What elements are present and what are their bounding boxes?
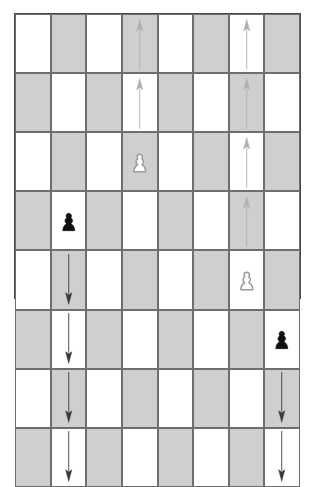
board-square-d7[interactable] bbox=[122, 73, 158, 132]
board-square-b3[interactable] bbox=[51, 310, 87, 369]
board-square-f2[interactable] bbox=[193, 369, 229, 428]
board-square-a8[interactable] bbox=[15, 14, 51, 73]
board-square-b7[interactable] bbox=[51, 73, 87, 132]
arrow-down-icon bbox=[52, 429, 86, 486]
arrow-up-icon bbox=[230, 15, 264, 72]
arrow-down-icon bbox=[52, 311, 86, 368]
board-square-d5[interactable] bbox=[122, 191, 158, 250]
board-square-b4[interactable] bbox=[51, 250, 87, 309]
board-square-d4[interactable] bbox=[122, 250, 158, 309]
board-square-h3[interactable] bbox=[264, 310, 300, 369]
arrow-up-icon bbox=[230, 74, 264, 131]
board-square-g1[interactable] bbox=[229, 428, 265, 487]
arrow-up-icon bbox=[230, 133, 264, 190]
board-square-c7[interactable] bbox=[86, 73, 122, 132]
board-square-a3[interactable] bbox=[15, 310, 51, 369]
board-square-h5[interactable] bbox=[264, 191, 300, 250]
arrow-up-icon bbox=[230, 192, 264, 249]
board-square-c3[interactable] bbox=[86, 310, 122, 369]
board-square-e4[interactable] bbox=[158, 250, 194, 309]
board-square-e3[interactable] bbox=[158, 310, 194, 369]
board-square-a7[interactable] bbox=[15, 73, 51, 132]
board-square-d8[interactable] bbox=[122, 14, 158, 73]
board-square-f7[interactable] bbox=[193, 73, 229, 132]
arrow-up-icon bbox=[123, 15, 157, 72]
board-square-c4[interactable] bbox=[86, 250, 122, 309]
white-pawn-icon[interactable] bbox=[123, 133, 157, 190]
arrow-down-icon bbox=[265, 429, 299, 486]
board-square-d1[interactable] bbox=[122, 428, 158, 487]
board-square-f4[interactable] bbox=[193, 250, 229, 309]
board-square-c2[interactable] bbox=[86, 369, 122, 428]
board-square-e8[interactable] bbox=[158, 14, 194, 73]
board-square-b2[interactable] bbox=[51, 369, 87, 428]
board-square-g3[interactable] bbox=[229, 310, 265, 369]
arrow-up-icon bbox=[123, 74, 157, 131]
board-square-a4[interactable] bbox=[15, 250, 51, 309]
board-square-g6[interactable] bbox=[229, 132, 265, 191]
board-square-e2[interactable] bbox=[158, 369, 194, 428]
board-square-g4[interactable] bbox=[229, 250, 265, 309]
board-square-c5[interactable] bbox=[86, 191, 122, 250]
board-square-d2[interactable] bbox=[122, 369, 158, 428]
board-square-h4[interactable] bbox=[264, 250, 300, 309]
board-square-a5[interactable] bbox=[15, 191, 51, 250]
board-square-e7[interactable] bbox=[158, 73, 194, 132]
board-square-h1[interactable] bbox=[264, 428, 300, 487]
board-square-e5[interactable] bbox=[158, 191, 194, 250]
white-pawn-icon[interactable] bbox=[230, 251, 264, 308]
board-square-f6[interactable] bbox=[193, 132, 229, 191]
board-square-f1[interactable] bbox=[193, 428, 229, 487]
board-square-a6[interactable] bbox=[15, 132, 51, 191]
arrow-down-icon bbox=[52, 251, 86, 308]
black-pawn-icon[interactable] bbox=[52, 192, 86, 249]
board-square-a2[interactable] bbox=[15, 369, 51, 428]
board-square-e1[interactable] bbox=[158, 428, 194, 487]
board-square-e6[interactable] bbox=[158, 132, 194, 191]
board-square-h8[interactable] bbox=[264, 14, 300, 73]
board-square-c1[interactable] bbox=[86, 428, 122, 487]
board-square-d3[interactable] bbox=[122, 310, 158, 369]
board-square-f8[interactable] bbox=[193, 14, 229, 73]
arrow-down-icon bbox=[265, 370, 299, 427]
board-square-b8[interactable] bbox=[51, 14, 87, 73]
board-square-h7[interactable] bbox=[264, 73, 300, 132]
board-square-a1[interactable] bbox=[15, 428, 51, 487]
arrow-down-icon bbox=[52, 370, 86, 427]
board-square-b6[interactable] bbox=[51, 132, 87, 191]
board-square-g2[interactable] bbox=[229, 369, 265, 428]
board-square-g7[interactable] bbox=[229, 73, 265, 132]
board-square-c6[interactable] bbox=[86, 132, 122, 191]
chess-board[interactable] bbox=[14, 13, 301, 299]
board-square-h2[interactable] bbox=[264, 369, 300, 428]
board-square-h6[interactable] bbox=[264, 132, 300, 191]
board-square-g8[interactable] bbox=[229, 14, 265, 73]
board-square-c8[interactable] bbox=[86, 14, 122, 73]
board-square-b1[interactable] bbox=[51, 428, 87, 487]
board-square-d6[interactable] bbox=[122, 132, 158, 191]
board-square-b5[interactable] bbox=[51, 191, 87, 250]
chess-board-grid bbox=[15, 14, 300, 298]
board-square-g5[interactable] bbox=[229, 191, 265, 250]
board-square-f5[interactable] bbox=[193, 191, 229, 250]
black-pawn-icon[interactable] bbox=[265, 311, 299, 368]
board-square-f3[interactable] bbox=[193, 310, 229, 369]
